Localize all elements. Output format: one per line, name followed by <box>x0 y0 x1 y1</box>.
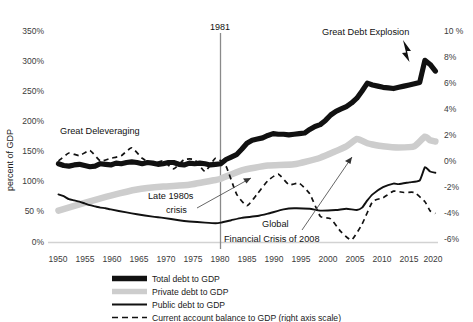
x-tick-1955: 1955 <box>76 254 95 264</box>
y-right-tick-neg6: -6% <box>444 234 460 244</box>
annotation-global-crisis-line1: Global <box>262 219 289 229</box>
x-tick-1990: 1990 <box>265 254 284 264</box>
y-right-tick-4: 4% <box>444 104 457 114</box>
annotation-great-deleveraging: Great Deleveraging <box>60 126 140 136</box>
x-tick-1960: 1960 <box>103 254 122 264</box>
y-left-tick-250: 250% <box>22 86 44 96</box>
y-right-tick-0: 0% <box>444 156 457 166</box>
x-tick-1965: 1965 <box>130 254 149 264</box>
annotation-year-1981: 1981 <box>210 22 230 32</box>
y-right-tick-neg4: -4% <box>444 208 460 218</box>
y-left-tick-0: 0% <box>32 237 45 247</box>
chart-background <box>0 0 473 322</box>
y-right-tick-neg2: -2% <box>444 182 460 192</box>
annotation-late-1980s-crisis-line2: crisis <box>166 205 187 215</box>
y-left-tick-300: 300% <box>22 56 44 66</box>
x-tick-2000: 2000 <box>319 254 338 264</box>
annotation-late-1980s-crisis-line1: Late 1980s <box>148 191 194 201</box>
x-tick-2020: 2020 <box>424 254 443 264</box>
x-tick-2015: 2015 <box>400 254 419 264</box>
legend-label-total-debt: Total debt to GDP <box>152 274 220 284</box>
y-left-tick-350: 350% <box>22 26 44 36</box>
debt-to-gdp-chart: 350% 300% 250% 200% 150% 100% 50 % 0% pe… <box>0 0 473 322</box>
x-tick-1950: 1950 <box>49 254 68 264</box>
x-axis-ticks: 1950 1955 1960 1965 1970 1975 1980 1985 … <box>49 254 443 264</box>
y-left-tick-50: 50 % <box>25 206 45 216</box>
x-tick-1980: 1980 <box>211 254 230 264</box>
x-tick-2010: 2010 <box>373 254 392 264</box>
y-left-tick-150: 150% <box>22 146 44 156</box>
y-right-tick-8: 8% <box>444 52 457 62</box>
y-left-tick-100: 100% <box>22 176 44 186</box>
legend-label-private-debt: Private debt to GDP <box>152 287 229 297</box>
x-tick-1985: 1985 <box>238 254 257 264</box>
legend-label-current-account: Current account balance to GDP (right ax… <box>152 313 341 322</box>
y-left-tick-200: 200% <box>22 116 44 126</box>
y-right-tick-6: 6% <box>444 78 457 88</box>
x-tick-2005: 2005 <box>346 254 365 264</box>
x-tick-1970: 1970 <box>157 254 176 264</box>
x-tick-1995: 1995 <box>292 254 311 264</box>
x-tick-1975: 1975 <box>184 254 203 264</box>
y-right-tick-2: 2% <box>444 130 457 140</box>
y-right-tick-10: 10 % <box>444 26 464 36</box>
annotation-great-debt-explosion: Great Debt Explosion <box>322 27 409 37</box>
annotation-global-crisis-line2: Financial Crisis of 2008 <box>224 234 320 244</box>
y-axis-left-title: percent of GDP <box>5 129 15 191</box>
legend-label-public-debt: Public debt to GDP <box>152 300 225 310</box>
chart-figure: 350% 300% 250% 200% 150% 100% 50 % 0% pe… <box>0 0 473 322</box>
